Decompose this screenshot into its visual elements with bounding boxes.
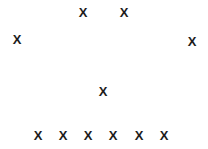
scatter-marker-x: X [185, 34, 199, 50]
scatter-marker-x: X [117, 5, 131, 21]
scatter-marker-x: X [31, 128, 45, 144]
scatter-marker-x: X [10, 32, 24, 48]
scatter-marker-x: X [56, 128, 70, 144]
scatter-marker-x: X [157, 128, 171, 144]
scatter-marker-x: X [132, 128, 146, 144]
scatter-marker-x: X [81, 128, 95, 144]
scatter-marker-x: X [96, 84, 110, 100]
scatter-marker-x: X [106, 128, 120, 144]
scatter-marker-x: X [76, 5, 90, 21]
scatter-plot-canvas: XXXXXXXXXXX [0, 0, 208, 149]
